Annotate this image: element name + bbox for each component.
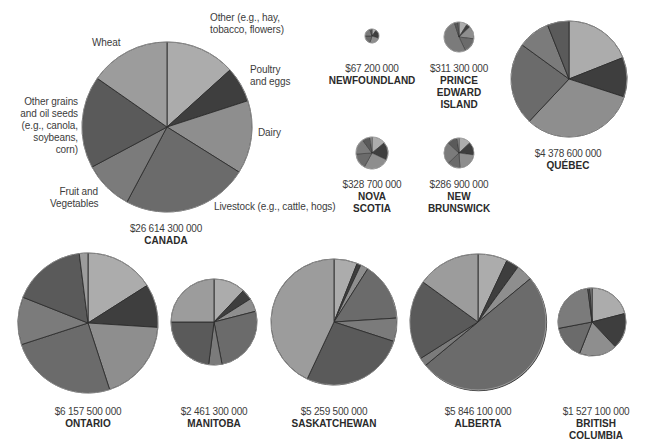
slice-wheat [171, 279, 214, 322]
region-name: MANITOBA [181, 418, 248, 430]
region-name: SASKATCHEWAN [292, 418, 377, 430]
pie-novascotia [356, 137, 388, 169]
label-grains: Other grains and oil seeds (e.g., canola… [8, 96, 78, 156]
pie-saskatchewan [271, 259, 397, 385]
region-name: CANADA [130, 235, 202, 247]
caption-ontario: $6 157 500 000 ONTARIO [55, 406, 122, 430]
caption-newbrunswick: $286 900 000 NEW BRUNSWICK [428, 179, 490, 215]
total-value: $1 527 100 000 [563, 406, 630, 418]
pie-pei [444, 22, 474, 52]
total-value: $5 846 100 000 [445, 406, 512, 418]
total-value: $26 614 300 000 [130, 223, 202, 235]
caption-newfoundland: $67 200 000 NEWFOUNDLAND [329, 63, 416, 87]
label-poultry: Poultry and eggs [250, 64, 290, 88]
total-value: $328 700 000 [343, 179, 402, 191]
caption-alberta: $5 846 100 000 ALBERTA [445, 406, 512, 430]
pie-ontario [18, 253, 158, 393]
chart-canvas: Other (e.g., hay, tobacco, flowers) Poul… [0, 0, 648, 448]
pie-canada [82, 42, 252, 212]
label-dairy: Dairy [258, 127, 281, 139]
caption-pei: $311 300 000 PRINCE EDWARD ISLAND [430, 63, 488, 111]
pie-manitoba [171, 279, 257, 365]
pie-charts [0, 0, 648, 448]
total-value: $5 259 500 000 [292, 406, 377, 418]
total-value: $67 200 000 [329, 63, 416, 75]
caption-novascotia: $328 700 000 NOVA SCOTIA [343, 179, 402, 215]
label-fruit: Fruit and Vegetables [50, 186, 98, 210]
pie-quebec [511, 21, 627, 137]
pie-bc [558, 288, 626, 356]
label-livestock: Livestock (e.g., cattle, hogs) [214, 201, 336, 213]
total-value: $286 900 000 [428, 179, 490, 191]
slice-grains [171, 322, 214, 365]
pie-newbrunswick [444, 138, 474, 168]
total-value: $6 157 500 000 [55, 406, 122, 418]
slice-fruit [558, 288, 592, 328]
total-value: $2 461 300 000 [181, 406, 248, 418]
region-name: BRITISH COLUMBIA [563, 418, 630, 442]
region-name: ALBERTA [445, 418, 512, 430]
region-name: QUÉBEC [535, 160, 602, 172]
caption-saskatchewan: $5 259 500 000 SASKATCHEWAN [292, 406, 377, 430]
region-name: ONTARIO [55, 418, 122, 430]
total-value: $311 300 000 [430, 63, 488, 75]
caption-quebec: $4 378 600 000 QUÉBEC [535, 148, 602, 172]
label-wheat: Wheat [92, 37, 120, 49]
pie-newfoundland [365, 29, 379, 43]
label-other: Other (e.g., hay, tobacco, flowers) [210, 12, 284, 36]
region-name: PRINCE EDWARD ISLAND [430, 75, 488, 111]
caption-manitoba: $2 461 300 000 MANITOBA [181, 406, 248, 430]
pie-alberta [410, 254, 547, 391]
total-value: $4 378 600 000 [535, 148, 602, 160]
region-name: NOVA SCOTIA [343, 191, 402, 215]
caption-canada: $26 614 300 000 CANADA [130, 223, 202, 247]
region-name: NEW BRUNSWICK [428, 191, 490, 215]
caption-bc: $1 527 100 000 BRITISH COLUMBIA [563, 406, 630, 442]
region-name: NEWFOUNDLAND [329, 75, 416, 87]
